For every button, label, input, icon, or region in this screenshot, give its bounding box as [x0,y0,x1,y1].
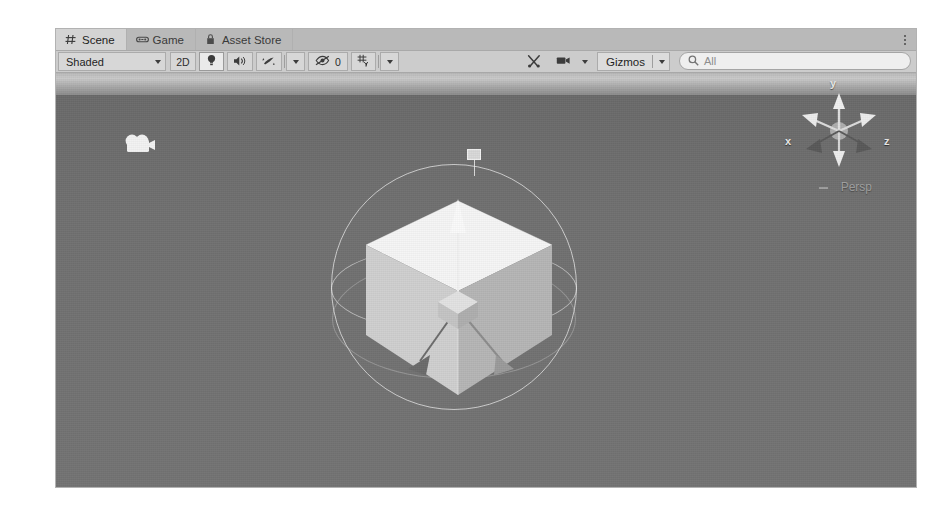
camera-button[interactable] [550,52,576,71]
shopping-bag-icon [205,34,217,45]
tab-label: Asset Store [222,34,281,46]
panel-tab-bar: Scene Game [56,29,916,51]
gizmos-group: Gizmos [597,52,670,71]
hidden-objects-button[interactable]: 0 [308,52,348,71]
gizmos-dropdown-button[interactable]: Gizmos [597,52,670,71]
tools-button[interactable] [520,52,547,71]
camera-dropdown-button[interactable] [575,52,594,71]
chevron-down-icon [293,60,299,64]
fx-sparkle-icon [262,55,276,69]
lightbulb-icon [207,54,216,69]
scene-viewport[interactable]: y x z Persp [56,73,916,487]
orientation-gizmo[interactable]: y x z [780,75,898,193]
tab-game[interactable]: Game [127,29,196,50]
search-icon [688,52,699,70]
view-mode-group: 2D [170,52,196,71]
camera-group [550,52,594,71]
tab-label: Game [153,34,184,46]
camera-gizmo-icon[interactable] [120,133,162,161]
shading-mode-label: Shaded [66,56,104,68]
shading-mode-dropdown[interactable]: Shaded [58,52,166,71]
grid-group [351,52,399,71]
tools-group [520,52,547,71]
axis-label-z[interactable]: z [884,135,890,147]
gizmos-label: Gizmos [606,56,645,68]
cube-object[interactable] [356,183,561,413]
audio-toggle-button[interactable] [227,52,253,71]
grid-hash-icon [65,34,77,45]
two-d-toggle-button[interactable]: 2D [170,52,196,71]
search-input[interactable]: All [679,52,911,70]
camera-icon [556,55,571,68]
effects-group [256,52,305,71]
axis-label-y[interactable]: y [830,77,836,89]
chevron-down-icon [387,60,393,64]
chevron-down-icon [155,60,161,64]
kebab-menu-icon[interactable] [898,31,912,49]
grid-dropdown-button[interactable] [380,52,399,71]
gamepad-icon [136,34,148,45]
scene-view-panel: Scene Game [55,28,917,488]
grid-toggle-button[interactable] [351,52,376,71]
tab-label: Scene [82,34,115,46]
axis-label-x[interactable]: x [785,135,791,147]
hidden-objects-count: 0 [335,56,341,68]
hidden-objects-group: 0 [308,52,348,71]
unity-editor-window: Scene Game [0,0,950,524]
projection-mode-label[interactable]: Persp [841,180,872,194]
speaker-icon [233,55,247,69]
lighting-toggle-button[interactable] [199,52,224,71]
search-value: All [704,55,716,67]
tab-asset-store[interactable]: Asset Store [196,29,293,50]
toolbar-spacer [402,52,520,71]
grid-axis-icon [357,54,370,69]
lighting-group [199,52,224,71]
effects-toggle-button[interactable] [256,52,282,71]
eye-slash-icon [315,55,330,68]
chevron-down-icon [659,60,665,64]
scene-view-toolbar: Shaded 2D [56,51,916,73]
two-d-label: 2D [176,56,189,68]
chevron-down-icon [582,60,588,64]
tab-bar-empty-space [293,29,916,50]
audio-group [227,52,253,71]
dash-icon [819,187,828,189]
tools-wrench-icon [527,54,541,70]
effects-dropdown-button[interactable] [286,52,305,71]
tab-scene[interactable]: Scene [56,29,127,50]
